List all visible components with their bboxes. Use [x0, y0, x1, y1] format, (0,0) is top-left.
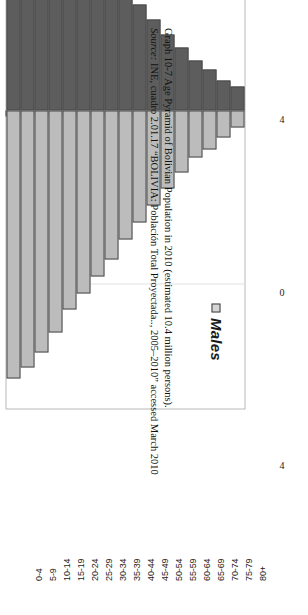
bar-female-70-74: [203, 69, 216, 110]
bar-female-40-44: [119, 0, 132, 110]
bar-female-10-14: [35, 0, 48, 110]
bar-female-60-64: [175, 48, 188, 111]
category-label-70-74: 70-74: [230, 558, 240, 581]
bar-male-15-19: [49, 110, 62, 332]
bar-female-35-39: [105, 0, 118, 110]
category-label-5-9: 5-9: [48, 568, 58, 581]
bar-male-40-44: [119, 110, 132, 240]
legend-swatch-males-icon: [211, 303, 220, 312]
bar-male-10-14: [35, 110, 48, 352]
bar-female-30-34: [91, 0, 104, 110]
caption-line-1: Graph 10-7 Age Pyramid of Bolivian Popul…: [161, 28, 175, 588]
bar-female-65-69: [189, 61, 202, 111]
category-label-75-79: 75-79: [244, 558, 254, 581]
bar-male-25-29: [77, 110, 90, 294]
value-axis-label-1: 4: [270, 114, 294, 125]
bar-female-0-4: [7, 0, 20, 110]
figure-page: Females Males 84048 80+75-7970-7465-6960…: [0, 0, 308, 615]
category-label-15-19: 15-19: [76, 558, 86, 581]
category-label-65-69: 65-69: [216, 558, 226, 581]
bar-female-75-79: [217, 80, 230, 110]
category-label-80+: 80+: [258, 566, 268, 581]
caption-source-word: Source:: [149, 28, 160, 60]
value-axis: 84048: [270, 0, 308, 615]
figure-caption: Graph 10-7 Age Pyramid of Bolivian Popul…: [133, 28, 175, 588]
category-label-25-29: 25-29: [104, 558, 114, 581]
bar-female-5-9: [21, 0, 34, 110]
category-label-60-64: 60-64: [202, 558, 212, 581]
value-axis-label-2: 0: [270, 287, 294, 298]
bar-female-15-19: [49, 0, 62, 110]
category-label-50-54: 50-54: [174, 558, 184, 581]
category-label-30-34: 30-34: [118, 558, 128, 581]
bar-male-80+: [231, 110, 244, 127]
category-label-10-14: 10-14: [62, 558, 72, 581]
bar-female-25-29: [77, 0, 90, 110]
category-label-55-59: 55-59: [188, 558, 198, 581]
bar-male-35-39: [105, 110, 118, 259]
category-tick: [5, 110, 6, 116]
bar-male-75-79: [217, 110, 230, 137]
category-label-0-4: 0-4: [34, 568, 44, 581]
bar-male-60-64: [175, 110, 188, 173]
bar-male-0-4: [7, 110, 20, 378]
category-label-20-24: 20-24: [90, 558, 100, 581]
population-pyramid-chart: Females Males: [0, 0, 250, 433]
bar-female-20-24: [63, 0, 76, 110]
legend-label-males: Males: [207, 318, 224, 361]
bar-male-5-9: [21, 110, 34, 367]
bar-male-30-34: [91, 110, 104, 276]
value-axis-label-3: 4: [270, 460, 294, 471]
legend-males: Males: [207, 303, 224, 361]
bar-male-70-74: [203, 110, 216, 149]
bar-male-65-69: [189, 110, 202, 158]
caption-line-2: Source: INE, cuadro 2.01.17 “BOLIVIA: Po…: [147, 28, 161, 588]
caption-source-text: INE, cuadro 2.01.17 “BOLIVIA: Población …: [149, 60, 160, 475]
bar-male-20-24: [63, 110, 76, 309]
bar-female-80+: [231, 87, 244, 111]
